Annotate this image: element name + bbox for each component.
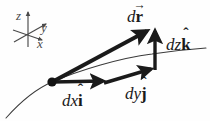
label-dz-differential: dz — [166, 35, 181, 54]
label-dz-symbol-group: ˆk — [181, 36, 190, 53]
label-dy: dyˆj — [125, 85, 147, 102]
label-dz-symbol: k — [181, 35, 190, 54]
diagram-canvas — [0, 0, 210, 121]
label-dx-differential: dx — [62, 91, 78, 110]
label-dr-differential: d — [127, 7, 136, 26]
axis-label-x: x — [37, 37, 43, 50]
label-dx: dxˆi — [62, 92, 83, 109]
label-dz: dzˆk — [166, 36, 191, 53]
axis-label-y: y — [41, 21, 47, 34]
label-dx-symbol: i — [78, 91, 83, 110]
label-dx-symbol-group: ˆi — [78, 92, 83, 109]
origin-point — [47, 77, 56, 86]
label-dy-symbol: j — [141, 84, 147, 103]
label-dr: d→r — [127, 8, 143, 25]
axis-label-z: z — [16, 9, 21, 22]
label-dr-symbol-group: →r — [136, 8, 144, 25]
label-dy-differential: dy — [125, 84, 141, 103]
label-dr-symbol: r — [136, 7, 144, 26]
vector-diagram: d→r dzˆk dyˆj dxˆi z y x — [0, 0, 210, 121]
label-dy-symbol-group: ˆj — [141, 85, 147, 102]
vector-dy — [104, 69, 151, 83]
vector-dx — [53, 81, 103, 82]
